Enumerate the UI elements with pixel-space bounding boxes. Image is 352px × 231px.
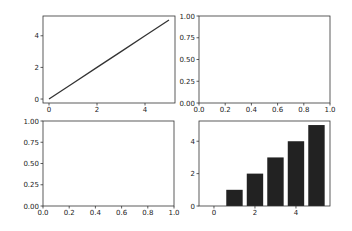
bar <box>267 157 283 206</box>
axes-top-left: 024024 <box>35 16 175 114</box>
bar <box>308 125 324 206</box>
y-tick-label: 0.00 <box>179 100 195 108</box>
x-tick-label: 0 <box>47 106 51 114</box>
x-tick-label: 0.8 <box>298 106 309 114</box>
x-tick-label: 1.0 <box>324 106 335 114</box>
x-tick-label: 0.6 <box>116 209 128 217</box>
axes-bottom-right: 024024 <box>191 121 330 217</box>
x-tick-label: 4 <box>294 209 299 217</box>
axes-frame <box>199 16 330 103</box>
y-tick-label: 0 <box>191 203 195 211</box>
y-tick-label: 0.00 <box>23 203 39 211</box>
x-tick-label: 0.0 <box>37 209 48 217</box>
bar <box>288 141 304 206</box>
y-tick-label: 0.75 <box>23 139 39 147</box>
x-tick-label: 0.8 <box>142 209 153 217</box>
x-tick-label: 1.0 <box>168 209 179 217</box>
x-tick-label: 4 <box>143 106 148 114</box>
y-tick-label: 0.25 <box>23 181 39 189</box>
y-tick-label: 0 <box>35 96 39 104</box>
x-tick-label: 0.0 <box>193 106 204 114</box>
axes-top-right: 0.00.20.40.60.81.00.000.250.500.751.00 <box>179 13 335 115</box>
y-tick-label: 2 <box>35 64 39 72</box>
x-tick-label: 0 <box>212 209 216 217</box>
x-tick-label: 0.2 <box>220 106 231 114</box>
x-tick-label: 0.4 <box>90 209 102 217</box>
figure: 0240240.00.20.40.60.81.00.000.250.500.75… <box>0 0 352 231</box>
x-tick-label: 0.2 <box>64 209 75 217</box>
axes-frame <box>43 121 174 206</box>
y-tick-label: 0.25 <box>179 78 195 86</box>
x-tick-label: 2 <box>95 106 99 114</box>
y-tick-label: 1.00 <box>179 13 195 21</box>
axes-bottom-left: 0.00.20.40.60.81.00.000.250.500.751.00 <box>23 118 179 218</box>
y-tick-label: 0.50 <box>179 56 195 64</box>
line-series <box>49 20 169 99</box>
x-tick-label: 2 <box>253 209 257 217</box>
y-tick-label: 4 <box>191 138 196 146</box>
bar <box>226 190 242 206</box>
y-tick-label: 4 <box>35 32 40 40</box>
y-tick-label: 0.75 <box>179 34 195 42</box>
y-tick-label: 0.50 <box>23 160 39 168</box>
y-tick-label: 2 <box>191 170 195 178</box>
y-tick-label: 1.00 <box>23 118 39 126</box>
bar <box>247 174 263 206</box>
x-tick-label: 0.4 <box>246 106 258 114</box>
x-tick-label: 0.6 <box>272 106 284 114</box>
